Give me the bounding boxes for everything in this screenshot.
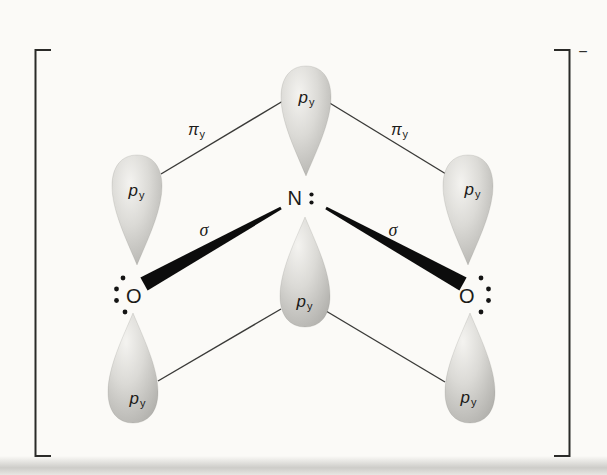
diagram-artwork	[0, 0, 607, 475]
p-glyph: p	[299, 88, 308, 107]
p-subscript: y	[307, 300, 313, 312]
p-glyph: p	[129, 181, 138, 200]
sigma-wedge-left	[140, 207, 281, 291]
p-subscript: y	[309, 96, 315, 108]
pi-y-label-right: πy	[391, 122, 407, 138]
overlap-line-lower-right	[321, 308, 445, 382]
p-glyph: p	[465, 180, 474, 199]
p-subscript: y	[140, 397, 146, 409]
p-subscript: y	[471, 396, 477, 408]
nitrogen-label: N	[288, 188, 303, 208]
pi-subscript: y	[403, 128, 409, 140]
p-y-label-upper-right: py	[465, 181, 480, 198]
right-bracket	[554, 50, 570, 456]
oxygen-right-label: O	[459, 286, 475, 306]
pi-glyph: π	[188, 121, 199, 138]
orbital-lobe-top-center	[281, 66, 331, 176]
orbital-lobe-center-bottom	[280, 217, 330, 327]
pi-bond-line-left	[161, 101, 283, 174]
p-glyph: p	[130, 389, 139, 408]
sigma-label-left: σ	[200, 221, 209, 239]
p-y-label-bottom-right: py	[461, 389, 476, 406]
pi-bond-line-right	[328, 102, 446, 174]
overlap-line-lower-left	[158, 309, 281, 381]
p-subscript: y	[139, 189, 145, 201]
p-y-label-upper-left: py	[129, 182, 144, 199]
nitrogen-lone-pair	[309, 192, 313, 204]
p-y-label-bottom-left: py	[130, 390, 145, 407]
pi-y-label-left: πy	[188, 122, 204, 138]
sigma-label-right: σ	[389, 221, 398, 239]
p-y-label-top-center: py	[299, 89, 314, 106]
p-glyph: p	[461, 388, 470, 407]
mo-diagram-nitrite-ion: − N O O py py py py py py πy πy σ σ	[0, 0, 607, 475]
p-y-label-center-bottom: py	[297, 293, 312, 310]
p-subscript: y	[475, 188, 481, 200]
oxygen-right-lone-pairs	[479, 276, 491, 315]
pi-glyph: π	[391, 121, 402, 138]
oxygen-left-label: O	[126, 286, 142, 306]
orbital-lobe-upper-right	[443, 155, 493, 265]
orbital-lobe-upper-left	[112, 155, 162, 265]
left-bracket	[36, 50, 52, 456]
charge-superscript: −	[578, 44, 587, 60]
p-glyph: p	[297, 292, 306, 311]
pi-subscript: y	[200, 128, 206, 140]
